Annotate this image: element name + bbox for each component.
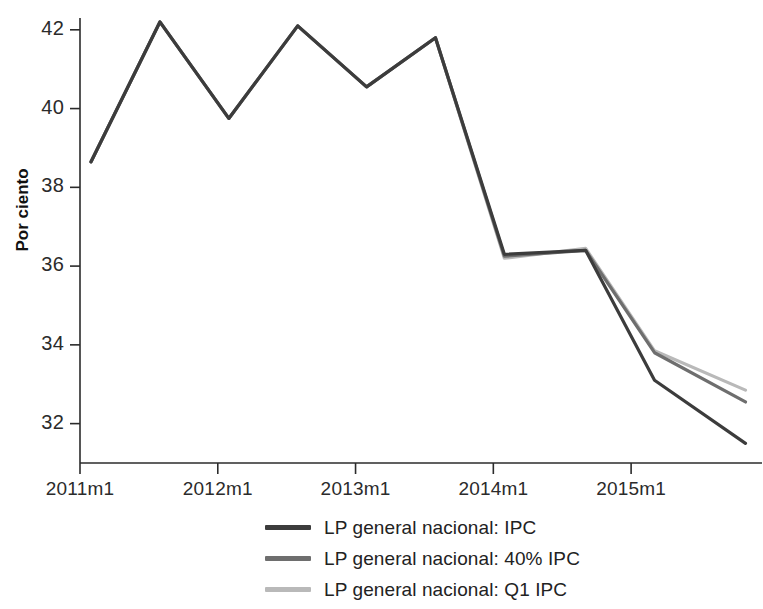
chart-figure: Por ciento 323436384042 2011m12012m12013… bbox=[0, 0, 763, 609]
x-tick-label: 2014m1 bbox=[423, 478, 563, 500]
x-axis-ticks bbox=[80, 463, 631, 474]
legend-label: LP general nacional: IPC bbox=[324, 517, 536, 539]
data-series-lines bbox=[91, 22, 745, 443]
y-tick-label: 38 bbox=[18, 174, 64, 197]
legend-swatch-icon bbox=[265, 587, 311, 592]
y-tick-label: 40 bbox=[18, 96, 64, 119]
legend-label: LP general nacional: Q1 IPC bbox=[324, 579, 567, 601]
x-tick-label: 2013m1 bbox=[286, 478, 426, 500]
x-tick-label: 2011m1 bbox=[10, 478, 150, 500]
y-axis-ticks bbox=[70, 30, 80, 424]
legend-item[interactable]: LP general nacional: 40% IPC bbox=[265, 543, 685, 574]
axis-lines bbox=[80, 18, 762, 463]
y-tick-label: 34 bbox=[18, 332, 64, 355]
y-tick-label: 42 bbox=[18, 17, 64, 40]
legend-swatch-icon bbox=[265, 556, 311, 561]
x-tick-label: 2012m1 bbox=[148, 478, 288, 500]
legend-label: LP general nacional: 40% IPC bbox=[324, 548, 580, 570]
chart-legend: LP general nacional: IPCLP general nacio… bbox=[265, 512, 685, 605]
legend-swatch-icon bbox=[265, 525, 311, 530]
x-tick-label: 2015m1 bbox=[561, 478, 701, 500]
y-tick-label: 32 bbox=[18, 411, 64, 434]
legend-item[interactable]: LP general nacional: Q1 IPC bbox=[265, 574, 685, 605]
legend-item[interactable]: LP general nacional: IPC bbox=[265, 512, 685, 543]
y-tick-label: 36 bbox=[18, 253, 64, 276]
